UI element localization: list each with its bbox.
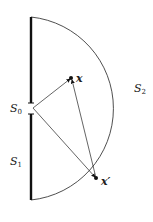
- ray-s0-to-x: [33, 79, 70, 108]
- point-xprime: [94, 176, 98, 180]
- boundary-arc-s2: [31, 17, 113, 200]
- label-s1: S1: [10, 155, 22, 169]
- diagram-canvas: x x′ S2 S0 S1: [0, 0, 153, 222]
- ray-xprime-to-x: [72, 80, 96, 178]
- label-s2: S2: [134, 82, 146, 96]
- label-s0: S0: [10, 102, 22, 116]
- label-xprime: x′: [100, 175, 111, 188]
- label-x: x: [75, 72, 83, 85]
- ray-s0-to-xprime: [33, 108, 95, 177]
- point-x: [69, 76, 73, 80]
